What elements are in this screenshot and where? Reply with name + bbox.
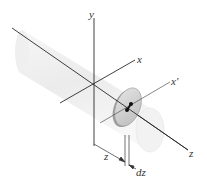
y-axis-label: y: [88, 8, 94, 20]
z-distance-label: z: [103, 150, 109, 162]
dimension-z: [94, 144, 125, 162]
diagram-canvas: y x x′ z z dz: [0, 0, 207, 189]
x-axis-label: x: [136, 53, 142, 65]
z-axis-label: z: [188, 147, 194, 159]
x-prime-axis-label: x′: [170, 75, 179, 87]
cylinder: [15, 30, 164, 152]
dz-label: dz: [136, 166, 147, 178]
